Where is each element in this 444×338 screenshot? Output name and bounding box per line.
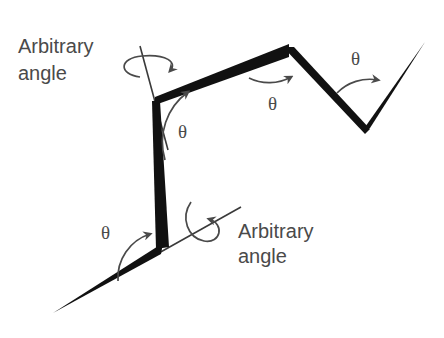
chain-segment-lower-riser bbox=[152, 101, 169, 249]
polymer-angle-diagram: Arbitrary angle Arbitrary angle θ θ θ θ bbox=[0, 0, 444, 338]
diagram-canvas: Arbitrary angle Arbitrary angle θ θ θ θ bbox=[0, 0, 444, 338]
angle-arc-valley-joint bbox=[337, 79, 378, 93]
angle-arc-peak-joint bbox=[249, 77, 291, 83]
chain-segment-tail-lower bbox=[53, 243, 163, 313]
arbitrary-angle-top-line2: angle bbox=[18, 62, 67, 84]
theta-valley-joint: θ bbox=[351, 48, 360, 69]
theta-upper-joint: θ bbox=[178, 121, 187, 142]
arbitrary-angle-bottom-line1: Arbitrary bbox=[238, 220, 314, 242]
arbitrary-angle-top-line1: Arbitrary bbox=[18, 35, 94, 57]
theta-peak-joint: θ bbox=[268, 93, 277, 114]
chain-segment-tail-upper bbox=[363, 42, 425, 130]
arbitrary-angle-bottom-line2: angle bbox=[238, 245, 287, 267]
theta-lower-joint: θ bbox=[101, 222, 110, 243]
